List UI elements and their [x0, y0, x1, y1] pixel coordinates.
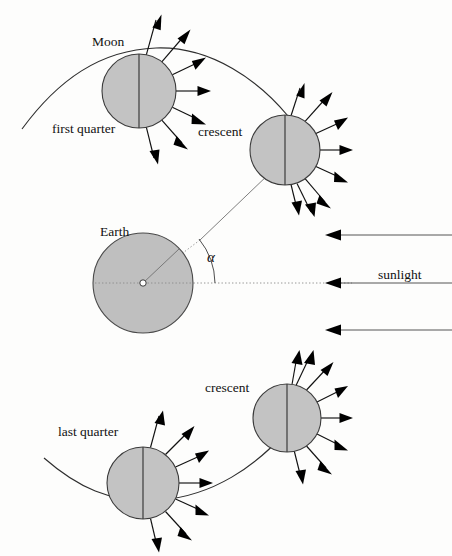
earth-center-marker: [140, 280, 146, 286]
label-moon: Moon: [92, 34, 125, 49]
label-alpha: α: [207, 249, 216, 265]
sunlight-ray-top: [325, 230, 452, 241]
label-first-quarter: first quarter: [52, 121, 116, 136]
last-quarter-moon: [107, 411, 213, 553]
crescent-moon-upper: [250, 83, 353, 217]
label-crescent-lower: crescent: [205, 380, 249, 395]
label-crescent-upper: crescent: [198, 124, 242, 139]
label-earth: Earth: [100, 224, 129, 239]
earth: [93, 233, 193, 333]
diagram-canvas: Moon first quarter crescent Earth α sunl…: [0, 0, 452, 556]
label-last-quarter: last quarter: [58, 424, 119, 439]
sunlight-rays: [325, 230, 452, 336]
label-sunlight: sunlight: [378, 267, 422, 282]
moon-phase-diagram: Moon first quarter crescent Earth α sunl…: [0, 0, 452, 556]
earth-to-crescent-line: [200, 173, 270, 240]
sunlight-ray-bottom: [325, 325, 452, 336]
crescent-moon-lower: [253, 350, 353, 485]
